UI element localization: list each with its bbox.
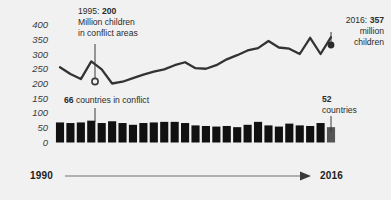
bar-2003 [191,125,199,142]
bar-2011 [275,127,283,143]
annotation-52-countries: 52 countries [322,94,357,116]
bar-2009 [254,122,262,143]
bar-2008 [244,125,252,143]
bar-2015 [317,123,325,142]
bar-2004 [202,126,210,143]
callout-dot-1995 [92,78,98,84]
bar-2006 [223,126,231,143]
bar-2010 [264,125,272,142]
bar-2002 [181,123,189,142]
annotation-2016-line2: million [241,26,384,37]
annotation-66-text: countries in conflict [74,95,149,105]
timeline-arrow [65,172,311,181]
bar-2000 [160,122,168,143]
x-axis-start-year: 1990 [30,170,53,181]
bar-2012 [285,124,293,143]
x-axis-end-year: 2016 [320,170,343,181]
bar-2014 [306,126,314,143]
bar-1992 [77,122,85,142]
annotation-2016-line3: children [241,37,384,48]
bar-2005 [212,127,220,143]
annotation-1995-line3: in conflict areas [78,28,138,39]
bar-1998 [139,123,147,142]
annotation-1995-line2: Million children [78,17,138,28]
annotation-66-value: 66 [64,95,74,105]
bar-1995 [108,121,116,142]
annotation-1995-line1: 1995: 200 [78,6,138,17]
bar-1994 [98,123,106,142]
bar-1990 [56,122,64,142]
bar-2007 [233,127,241,142]
annotation-2016-line1: 2016: 357 [241,15,384,26]
bar-1996 [118,123,126,142]
annotation-1995-children: 1995: 200 Million children in conflict a… [78,6,138,40]
bar-1991 [66,123,74,142]
annotation-52-value: 52 [322,94,357,105]
bar-1997 [129,125,137,143]
annotation-2016-children: 2016: 357 million children [241,15,384,49]
annotation-66-countries: 66 countries in conflict [64,95,149,106]
bar-2001 [171,122,179,143]
bar-1999 [150,122,158,142]
annotation-52-text: countries [322,105,357,116]
infographic-canvas: 400 350 300 250 200 150 100 50 0 1995: 2… [0,0,391,200]
bar-2013 [296,125,304,142]
bar-1993 [87,121,95,143]
bar-series-countries-in-conflict [56,121,335,143]
